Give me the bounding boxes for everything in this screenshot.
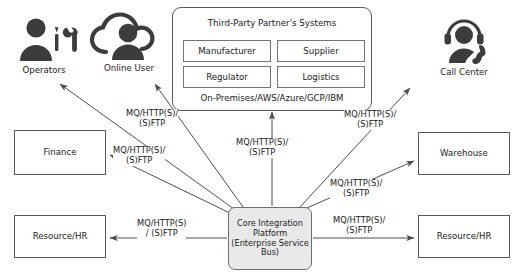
edge-label-bottom-left: MQ/HTTP(S) / (S)FTP [137,219,186,239]
partner-panel-title: Third-Party Partner's Systems [173,18,371,28]
system-box-finance[interactable]: Finance [14,130,106,175]
edge-label-upper-right: MQ/HTTP(S)/ (S)FTP [344,110,396,130]
edge-label-mid-right: MQ/HTTP(S)/ (S)FTP [330,179,382,199]
cloud-user-icon [86,8,172,62]
partner-box-supplier[interactable]: Supplier [277,40,365,62]
hub-label: Core Integration Platform (Enterprise Se… [231,219,308,258]
partner-panel-deployment-label: On-Premises/AWS/Azure/GCP/IBM [173,93,371,103]
edge-label-top-center: MQ/HTTP(S)/ (S)FTP [236,138,288,158]
hub-label-line3: (Enterprise Service [231,238,308,248]
system-box-resource-hr-right[interactable]: Resource/HR [418,215,510,258]
actor-operators-label: Operators [6,65,82,75]
operator-technician-icon [6,14,82,64]
hub-label-line2: Platform [253,228,287,238]
actor-operators: Operators [6,14,82,75]
edge-label-upper-left: MQ/HTTP(S)/ (S)FTP [126,109,178,129]
partner-box-logistics[interactable]: Logistics [277,66,365,88]
diagram-canvas: Operators Online User Call Center Thi [0,0,524,276]
edge-label-bottom-right: MQ/HTTP(S)/ (S)FTP [333,216,385,236]
core-integration-platform-hub[interactable]: Core Integration Platform (Enterprise Se… [228,207,312,270]
hub-label-line1: Core Integration [237,218,303,228]
actor-call-center: Call Center [426,18,502,77]
partner-box-manufacturer[interactable]: Manufacturer [183,40,271,62]
partner-box-regulator[interactable]: Regulator [183,66,271,88]
actor-online-user-label: Online User [86,63,172,73]
system-box-warehouse[interactable]: Warehouse [418,132,510,175]
actor-call-center-label: Call Center [426,67,502,77]
hub-label-line4: Bus) [261,247,279,257]
third-party-partner-panel: Third-Party Partner's Systems Manufactur… [172,7,372,111]
edge-label-mid-left: MQ/HTTP(S)/ (S)FTP [113,146,165,166]
headset-agent-icon [426,18,502,66]
system-box-resource-hr-left[interactable]: Resource/HR [14,215,106,258]
actor-online-user: Online User [86,8,172,73]
